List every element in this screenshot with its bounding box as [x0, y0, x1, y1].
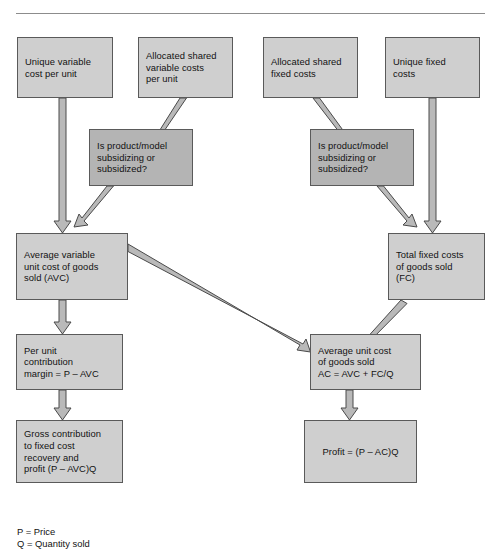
node-per-unit-contribution-margin-label: Per unit contribution margin = P – AVC: [24, 345, 115, 380]
node-unique-fixed-costs: Unique fixed costs: [385, 37, 480, 98]
edge-average-cost-to-profit: [341, 390, 358, 420]
node-average-unit-cost-label: Average unit cost of goods sold AC = AVC…: [318, 345, 413, 380]
edge-decision-left-to-avc: [74, 186, 114, 227]
legend-text: P = Price Q = Quantity sold: [17, 526, 90, 550]
node-allocated-shared-variable-costs: Allocated shared variable costs per unit: [138, 37, 233, 98]
node-decision-left: Is product/model subsidizing or subsidiz…: [89, 129, 193, 186]
node-average-variable-cost: Average variable unit cost of goods sold…: [16, 233, 128, 300]
edge-unique-variable-cost-to-avc: [54, 98, 71, 233]
node-per-unit-contribution-margin: Per unit contribution margin = P – AVC: [16, 334, 123, 390]
edge-avc-to-contribution-margin: [54, 300, 71, 334]
node-average-unit-cost: Average unit cost of goods sold AC = AVC…: [310, 334, 421, 390]
node-decision-right: Is product/model subsidizing or subsidiz…: [310, 129, 414, 186]
top-divider-rule: [16, 13, 485, 14]
node-decision-right-label: Is product/model subsidizing or subsidiz…: [318, 140, 406, 175]
node-allocated-shared-fixed-costs: Allocated shared fixed costs: [263, 37, 358, 98]
node-average-variable-cost-label: Average variable unit cost of goods sold…: [24, 249, 120, 284]
edge-decision-right-to-fc: [377, 186, 417, 227]
node-unique-fixed-costs-label: Unique fixed costs: [393, 56, 472, 79]
node-gross-contribution: Gross contribution to fixed cost recover…: [16, 420, 123, 483]
node-unique-variable-cost-label: Unique variable cost per unit: [25, 56, 105, 79]
flowchart-page: Unique variable cost per unit Allocated …: [0, 0, 501, 550]
edge-unique-fixed-costs-to-fc: [424, 98, 441, 233]
node-profit: Profit = (P – AC)Q: [304, 420, 417, 483]
legend-definitions: P = Price Q = Quantity sold: [17, 513, 90, 550]
node-total-fixed-costs-label: Total fixed costs of goods sold (FC): [396, 249, 477, 284]
edge-contribution-margin-to-gross-contribution: [54, 390, 71, 420]
node-gross-contribution-label: Gross contribution to fixed cost recover…: [24, 428, 115, 474]
node-allocated-shared-fixed-costs-label: Allocated shared fixed costs: [271, 56, 350, 79]
node-profit-label: Profit = (P – AC)Q: [312, 446, 409, 458]
node-unique-variable-cost: Unique variable cost per unit: [17, 37, 113, 98]
node-decision-left-label: Is product/model subsidizing or subsidiz…: [97, 140, 185, 175]
edge-avc-to-average-cost: [128, 244, 311, 352]
node-allocated-shared-variable-costs-label: Allocated shared variable costs per unit: [146, 50, 225, 85]
node-total-fixed-costs: Total fixed costs of goods sold (FC): [388, 233, 485, 300]
